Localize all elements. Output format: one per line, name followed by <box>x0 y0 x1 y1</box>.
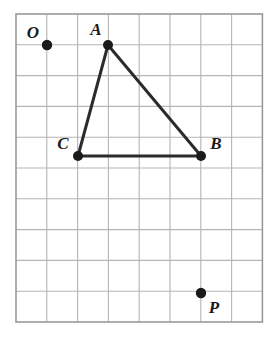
point-dot-b <box>196 151 206 161</box>
triangle-edge-AB <box>108 45 201 156</box>
grid-lines <box>16 14 262 322</box>
point-label-a: A <box>89 20 101 39</box>
figure-canvas: OABCP <box>0 0 277 346</box>
point-label-o: O <box>27 23 39 42</box>
point-dot-a <box>103 40 113 50</box>
point-label-p: P <box>208 298 220 317</box>
point-dot-p <box>196 288 206 298</box>
geometry-figure: OABCP <box>0 0 277 346</box>
point-label-b: B <box>209 134 221 153</box>
triangle-edge-CA <box>78 45 108 156</box>
point-dots <box>42 40 206 298</box>
point-dot-o <box>42 40 52 50</box>
point-label-c: C <box>57 134 69 153</box>
point-dot-c <box>73 151 83 161</box>
